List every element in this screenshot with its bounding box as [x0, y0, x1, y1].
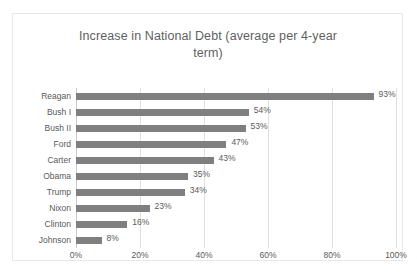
gridline-100 [396, 88, 397, 248]
bar-row: 16% [76, 216, 396, 232]
y-axis-label: Obama [21, 168, 71, 184]
x-axis-tick-label: 40% [195, 250, 212, 260]
y-axis-category-labels: ReaganBush IBush IIFordCarterObamaTrumpN… [21, 88, 71, 248]
bar-row: 54% [76, 104, 396, 120]
chart-frame: Increase in National Debt (average per 4… [12, 13, 403, 261]
bar-series: 93%54%53%47%43%35%34%23%16%8% [76, 88, 396, 248]
y-axis-label: Johnson [21, 232, 71, 248]
bar-value-label: 8% [107, 233, 119, 243]
y-axis-label: Carter [21, 152, 71, 168]
bar-value-label: 93% [379, 89, 396, 99]
bar[interactable] [76, 125, 246, 132]
bar-value-label: 35% [193, 169, 210, 179]
chart-title-line-1: Increase in National Debt (average per 4… [39, 28, 377, 45]
y-axis-label: Bush II [21, 120, 71, 136]
bar-row: 34% [76, 184, 396, 200]
bar-value-label: 43% [219, 153, 236, 163]
chart-title: Increase in National Debt (average per 4… [39, 28, 377, 62]
x-axis-tick-label: 60% [259, 250, 276, 260]
y-axis-label: Ford [21, 136, 71, 152]
bar-value-label: 23% [155, 201, 172, 211]
bar-value-label: 54% [254, 105, 271, 115]
bar-value-label: 16% [132, 217, 149, 227]
bar-row: 47% [76, 136, 396, 152]
bar[interactable] [76, 173, 188, 180]
bar[interactable] [76, 205, 150, 212]
bar-row: 35% [76, 168, 396, 184]
bar[interactable] [76, 157, 214, 164]
bar[interactable] [76, 93, 374, 100]
x-axis-tick-labels: 0%20%40%60%80%100% [76, 250, 396, 264]
bar-row: 53% [76, 120, 396, 136]
bar[interactable] [76, 221, 127, 228]
plot-area: 93%54%53%47%43%35%34%23%16%8% [76, 88, 396, 248]
chart-title-line-2: term) [39, 45, 377, 62]
x-axis-tick-label: 20% [131, 250, 148, 260]
x-axis-tick-label: 0% [70, 250, 82, 260]
y-axis-label: Trump [21, 184, 71, 200]
bar-row: 23% [76, 200, 396, 216]
bar[interactable] [76, 141, 226, 148]
bar[interactable] [76, 237, 102, 244]
x-axis-tick-label: 80% [323, 250, 340, 260]
bar-row: 93% [76, 88, 396, 104]
bar-value-label: 34% [190, 185, 207, 195]
bar-value-label: 47% [231, 137, 248, 147]
y-axis-label: Bush I [21, 104, 71, 120]
bar-row: 43% [76, 152, 396, 168]
x-axis-tick-label: 100% [385, 250, 407, 260]
y-axis-label: Nixon [21, 200, 71, 216]
y-axis-label: Clinton [21, 216, 71, 232]
bar-row: 8% [76, 232, 396, 248]
bar-value-label: 53% [251, 121, 268, 131]
bar[interactable] [76, 109, 249, 116]
y-axis-label: Reagan [21, 88, 71, 104]
bar[interactable] [76, 189, 185, 196]
